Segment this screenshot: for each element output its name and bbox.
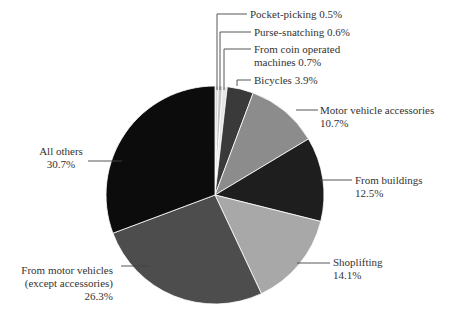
label-motor-vehicle-accessories-line: Motor vehicle accessories (320, 104, 434, 116)
label-all-others-line: 30.7% (47, 158, 75, 170)
label-from-buildings-line: 12.5% (355, 187, 383, 199)
label-from-motor-vehicles-except-accessories-line: 26.3% (85, 290, 113, 302)
label-from-coin-operated-machines-line: From coin operated (254, 43, 341, 55)
label-all-others: All others30.7% (39, 145, 83, 170)
label-pocket-picking: Pocket-picking 0.5% (250, 8, 342, 20)
label-shoplifting-line: Shoplifting (333, 256, 383, 268)
label-from-motor-vehicles-except-accessories: From motor vehicles(except accessories)2… (21, 264, 113, 302)
label-bicycles: Bicycles 3.9% (254, 74, 318, 86)
label-purse-snatching: Purse-snatching 0.6% (254, 26, 350, 38)
label-from-coin-operated-machines: From coin operatedmachines 0.7% (254, 43, 341, 68)
label-pocket-picking-line: Pocket-picking 0.5% (250, 8, 342, 20)
label-bicycles-line: Bicycles 3.9% (254, 74, 318, 86)
label-purse-snatching-line: Purse-snatching 0.6% (254, 26, 350, 38)
pie-chart: Pocket-picking 0.5%Purse-snatching 0.6%F… (0, 0, 452, 314)
leader-from-coin-operated-machines (224, 49, 251, 90)
label-from-buildings: From buildings12.5% (355, 174, 423, 199)
leader-purse-snatching (220, 32, 251, 90)
label-all-others-line: All others (39, 145, 83, 157)
label-from-motor-vehicles-except-accessories-line: (except accessories) (25, 277, 114, 290)
leader-pocket-picking (217, 14, 247, 90)
label-motor-vehicle-accessories-line: 10.7% (320, 117, 348, 129)
label-shoplifting: Shoplifting14.1% (333, 256, 383, 281)
label-from-motor-vehicles-except-accessories-line: From motor vehicles (21, 264, 113, 276)
pie-slices (106, 86, 324, 304)
label-motor-vehicle-accessories: Motor vehicle accessories10.7% (320, 104, 434, 129)
leader-bicycles (237, 80, 251, 86)
label-shoplifting-line: 14.1% (333, 269, 361, 281)
label-from-coin-operated-machines-line: machines 0.7% (254, 56, 321, 68)
label-from-buildings-line: From buildings (355, 174, 423, 186)
